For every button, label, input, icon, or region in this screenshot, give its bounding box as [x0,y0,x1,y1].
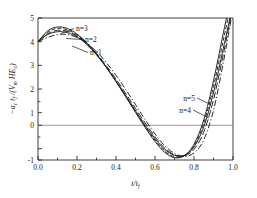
y-tick-label: 1 [30,109,34,118]
curve-label-n4: n=4 [179,106,191,115]
curve-label-n2: n=2 [85,35,97,44]
x-tick-label: 0.6 [150,163,160,172]
curve-label-n1: n=1 [90,48,102,57]
y-tick-label: 3 [30,61,34,70]
y-tick-label: 4 [30,38,34,47]
x-tick-label: 0.8 [189,163,199,172]
chart-figure: 5 4 3 2 1 0 -1 0.0 0.2 0.4 0.6 [0,0,257,198]
y-tick-label: 5 [30,14,34,23]
curve-label-n5: n=5 [183,94,195,103]
x-tick-label: 0.0 [33,163,43,172]
svg-text:−ac tf /(Vm HEc): −ac tf /(Vm HEc) [8,63,18,115]
y-tick-label: 0 [30,121,34,130]
y-axis-title: −ac tf /(Vm HEc) [8,63,18,115]
x-tick-label: 1.0 [228,163,238,172]
y-tick-label: 2 [30,85,34,94]
x-tick-label: 0.4 [111,163,121,172]
x-tick-label: 0.2 [72,163,82,172]
chart-svg: 5 4 3 2 1 0 -1 0.0 0.2 0.4 0.6 [0,0,257,198]
curve-label-n3: n=3 [76,24,88,33]
